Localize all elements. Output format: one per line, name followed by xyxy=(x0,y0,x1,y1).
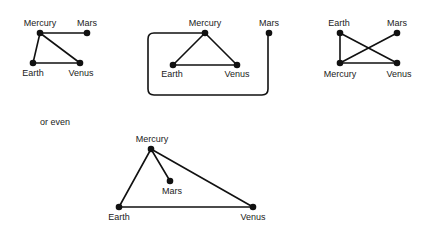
node-mars xyxy=(84,30,91,37)
label-earth: Earth xyxy=(22,68,44,78)
label-mars: Mars xyxy=(77,18,97,28)
node-venus xyxy=(394,60,401,67)
edge-mercury-venus xyxy=(40,33,80,63)
node-mercury xyxy=(337,60,344,67)
edge-mercury-mars-routed xyxy=(148,33,268,95)
label-venus: Venus xyxy=(240,212,266,222)
node-venus xyxy=(234,62,241,69)
node-venus xyxy=(250,204,257,211)
label-venus: Venus xyxy=(386,69,412,79)
label-mars: Mars xyxy=(259,18,279,28)
node-earth xyxy=(30,60,37,67)
caption-or-even: or even xyxy=(40,117,70,127)
edge-mercury-earth xyxy=(119,149,151,207)
label-mercury: Mercury xyxy=(189,18,222,28)
node-mercury xyxy=(37,30,44,37)
edge-mercury-venus xyxy=(205,33,237,65)
label-venus: Venus xyxy=(68,68,94,78)
label-mars: Mars xyxy=(387,18,407,28)
node-venus xyxy=(77,60,84,67)
node-earth xyxy=(116,204,123,211)
node-earth xyxy=(337,30,344,37)
planet-graphs-diagram: Mercury Mars Earth Venus Mercury Mars Ea… xyxy=(0,0,423,228)
node-mercury xyxy=(202,30,209,37)
label-mercury: Mercury xyxy=(24,18,57,28)
node-mercury xyxy=(148,146,155,153)
edge-mercury-earth xyxy=(33,33,40,63)
label-mercury: Mercury xyxy=(324,69,357,79)
label-venus: Venus xyxy=(224,69,250,79)
edge-mercury-venus xyxy=(151,149,253,207)
node-earth xyxy=(170,62,177,69)
graph-1: Mercury Mars Earth Venus xyxy=(22,18,97,78)
label-earth: Earth xyxy=(328,18,350,28)
graph-2: Mercury Mars Earth Venus xyxy=(148,18,279,95)
node-mars xyxy=(167,178,174,185)
graph-4: Mercury Mars Earth Venus xyxy=(108,134,266,222)
label-mars: Mars xyxy=(162,186,182,196)
label-earth: Earth xyxy=(108,212,130,222)
node-mars xyxy=(266,30,273,37)
graph-3: Earth Mars Mercury Venus xyxy=(324,18,412,79)
node-mars xyxy=(394,30,401,37)
edge-mercury-earth xyxy=(173,33,205,65)
label-earth: Earth xyxy=(161,69,183,79)
label-mercury: Mercury xyxy=(136,134,169,144)
